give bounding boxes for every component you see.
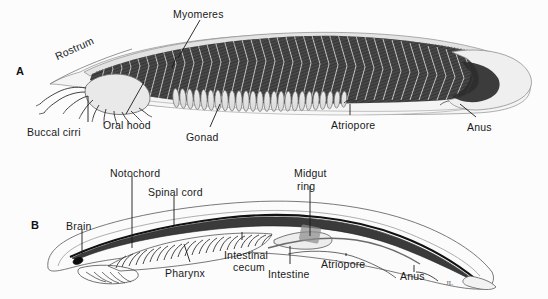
label-brain: Brain: [66, 220, 92, 232]
label-gonad: Gonad: [186, 131, 219, 143]
label-buccal-cirri: Buccal cirri: [27, 126, 81, 138]
panel-letter-a: A: [16, 65, 24, 77]
lancelet-anatomy-figure: A B Myomeres Rostrum Buccal cirri Oral h…: [0, 0, 548, 299]
label-intestine: Intestine: [268, 268, 310, 280]
label-anus-b: Anus: [400, 270, 425, 282]
artist-signature: JL: [446, 279, 453, 287]
label-atriopore-a: Atriopore: [331, 119, 375, 131]
label-oral-hood: Oral hood: [103, 119, 151, 131]
label-notochord: Notochord: [110, 167, 160, 179]
label-midgut-ring: ring: [297, 180, 315, 192]
label-midgut: Midgut: [294, 167, 327, 179]
label-intestinal: Intestinal: [224, 249, 268, 261]
label-atriopore-b: Atriopore: [321, 258, 365, 270]
panel-letter-b: B: [31, 219, 39, 231]
label-intestinal-cecum: cecum: [233, 261, 265, 273]
label-spinal-cord: Spinal cord: [148, 186, 203, 198]
label-myomeres: Myomeres: [173, 8, 224, 20]
label-anus-a: Anus: [467, 121, 492, 133]
label-pharynx: Pharynx: [165, 267, 205, 279]
